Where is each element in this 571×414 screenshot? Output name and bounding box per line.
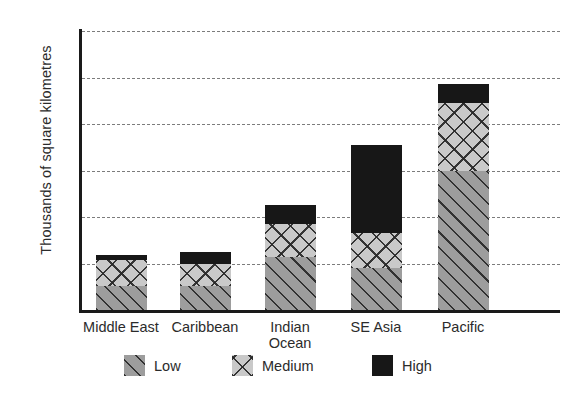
legend-item-medium[interactable]: Medium: [232, 355, 314, 376]
bar-segment-low: [438, 171, 489, 311]
bar-middle-east: [96, 255, 147, 310]
bar-segment-high: [180, 252, 231, 264]
legend-label: Medium: [262, 358, 314, 374]
plot-area: 020406080100120 Middle EastCaribbeanIndi…: [82, 31, 560, 310]
bar-segment-medium: [438, 103, 489, 170]
legend-swatch-low-icon: [124, 355, 145, 376]
bar-segment-low: [265, 257, 316, 310]
bar-caribbean: [180, 252, 231, 310]
bar-segment-medium: [180, 264, 231, 286]
bar-segment-high: [351, 145, 402, 233]
bar-segment-low: [180, 286, 231, 310]
x-axis-label: Pacific: [393, 319, 533, 335]
bar-segment-low: [96, 286, 147, 310]
y-axis-title: Thousands of square kilometres: [38, 0, 54, 300]
bar-segment-medium: [96, 260, 147, 286]
x-axis-line: [79, 310, 560, 313]
bar-segment-high: [265, 205, 316, 224]
bar-segment-low: [351, 268, 402, 310]
stacked-bar-chart: Thousands of square kilometres 020406080…: [0, 0, 571, 414]
bar-indian-ocean: [265, 205, 316, 310]
legend-label: Low: [154, 358, 181, 374]
legend-swatch-medium-icon: [232, 355, 253, 376]
gridline: [82, 78, 560, 79]
bar-pacific: [438, 84, 489, 310]
bar-segment-medium: [265, 224, 316, 257]
legend-label: High: [402, 358, 432, 374]
gridline: [82, 31, 560, 32]
bar-segment-high: [96, 255, 147, 260]
legend-item-high[interactable]: High: [372, 355, 432, 376]
legend-swatch-high-icon: [372, 355, 393, 376]
legend-item-low[interactable]: Low: [124, 355, 181, 376]
chart-legend: LowMediumHigh: [0, 355, 571, 395]
bar-segment-high: [438, 84, 489, 103]
bar-se-asia: [351, 145, 402, 310]
bar-segment-medium: [351, 233, 402, 268]
